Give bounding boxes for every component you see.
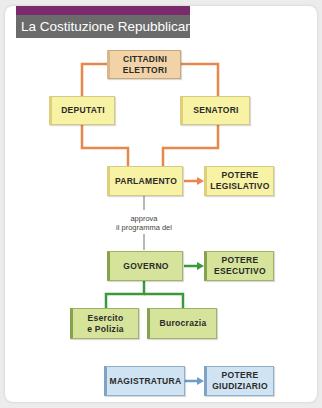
node-label: Burocrazia (160, 318, 207, 329)
node-label: POTERE (210, 170, 269, 181)
node-label: GIUDIZIARIO (212, 381, 268, 392)
node-label: ELETTORI (123, 65, 167, 76)
node-label: PARLAMENTO (115, 176, 177, 187)
node-governo: GOVERNO (107, 251, 183, 281)
node-label: Esercito (87, 313, 124, 324)
node-label: MAGISTRATURA (110, 376, 182, 387)
node-deputati: DEPUTATI (49, 96, 115, 125)
edge-label-line: approva (104, 214, 184, 223)
node-potere-legislativo: POTERELEGISLATIVO (204, 166, 274, 196)
node-label: GOVERNO (123, 261, 169, 272)
node-label: CITTADINI (123, 54, 167, 65)
edge-label-line: il programma del (104, 223, 184, 232)
node-senatori: SENATORI (180, 96, 250, 125)
node-label: e Polizia (87, 324, 124, 335)
node-potere-esecutivo: POTEREESECUTIVO (204, 251, 274, 281)
node-esercito-polizia: Esercitoe Polizia (70, 308, 139, 339)
node-parlamento: PARLAMENTO (107, 166, 183, 196)
node-label: LEGISLATIVO (210, 181, 269, 192)
node-potere-giudiziario: POTEREGIUDIZIARIO (204, 366, 274, 396)
node-label: DEPUTATI (61, 105, 105, 116)
edge-label: approva il programma del (104, 214, 184, 233)
node-label: POTERE (212, 370, 268, 381)
node-cittadini-elettori: CITTADINIELETTORI (107, 50, 181, 79)
node-label: ESECUTIVO (214, 266, 266, 277)
node-magistratura: MAGISTRATURA (104, 366, 185, 396)
node-label: SENATORI (193, 105, 239, 116)
node-burocrazia: Burocrazia (147, 308, 217, 339)
node-label: POTERE (214, 255, 266, 266)
